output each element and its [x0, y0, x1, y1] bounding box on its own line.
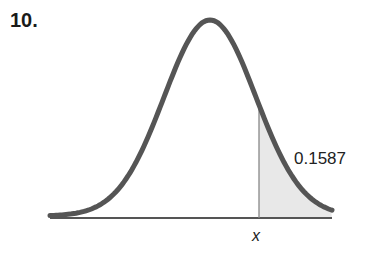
area-label: 0.1587	[294, 149, 346, 168]
x-label: x	[251, 227, 261, 244]
normal-curve-diagram: 0.1587 x	[0, 0, 382, 254]
